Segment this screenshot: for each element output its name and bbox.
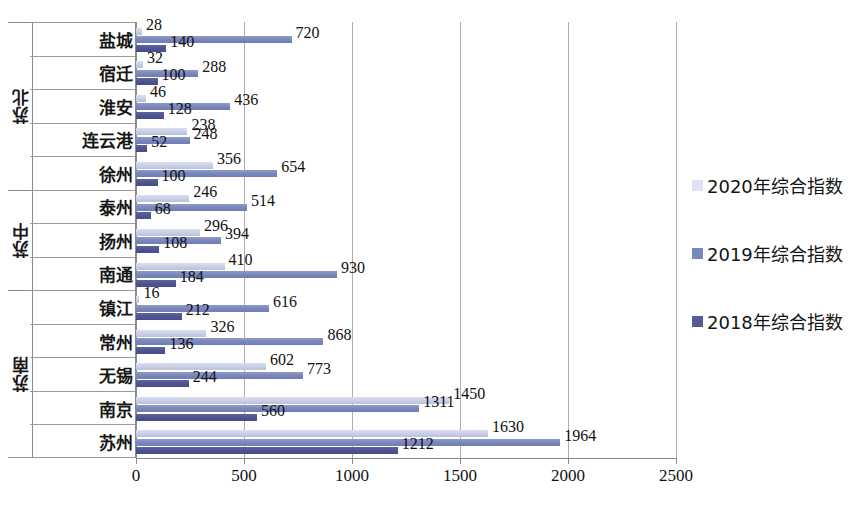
category-label: 常州 bbox=[99, 329, 133, 354]
x-tick-1000 bbox=[352, 458, 353, 464]
category-label: 苏州 bbox=[99, 429, 133, 454]
chart-legend: 2020年综合指数2019年综合指数2018年综合指数 bbox=[692, 172, 862, 376]
category-label: 扬州 bbox=[99, 228, 133, 253]
category-label-row: 泰州 bbox=[30, 190, 136, 224]
data-label: 46 bbox=[150, 84, 166, 100]
data-label: 136 bbox=[169, 336, 193, 352]
category-label-row: 南京 bbox=[30, 391, 136, 425]
bar-group-row: 32288100 bbox=[136, 56, 676, 90]
bar bbox=[136, 212, 151, 219]
data-label: 1212 bbox=[402, 436, 434, 452]
category-column-bottom-line bbox=[8, 457, 136, 458]
data-label: 100 bbox=[162, 67, 186, 83]
region-group-label: 苏北 bbox=[8, 88, 33, 124]
bar bbox=[136, 380, 189, 387]
bar bbox=[136, 397, 449, 404]
bar bbox=[136, 36, 292, 43]
data-label: 246 bbox=[193, 184, 217, 200]
bar-group-row: 296394108 bbox=[136, 223, 676, 257]
data-label: 108 bbox=[163, 235, 187, 251]
region-group-column: 苏北苏中苏南 bbox=[8, 22, 32, 458]
bar bbox=[136, 170, 277, 177]
data-label: 244 bbox=[193, 369, 217, 385]
data-label: 68 bbox=[155, 201, 171, 217]
data-label: 616 bbox=[273, 294, 297, 310]
bar-group-row: 46436128 bbox=[136, 89, 676, 123]
data-label: 100 bbox=[162, 168, 186, 184]
category-label-row: 宿迁 bbox=[30, 56, 136, 90]
category-label: 无锡 bbox=[99, 362, 133, 387]
category-label: 南通 bbox=[99, 261, 133, 286]
bar bbox=[136, 430, 488, 437]
category-label: 徐州 bbox=[99, 161, 133, 186]
data-label: 436 bbox=[234, 92, 258, 108]
x-tick-label: 2000 bbox=[551, 466, 585, 486]
data-label: 602 bbox=[270, 352, 294, 368]
bar-group-row: 410930184 bbox=[136, 257, 676, 291]
bar bbox=[136, 179, 158, 186]
region-group-cell: 苏中 bbox=[8, 190, 32, 291]
category-label-row: 无锡 bbox=[30, 357, 136, 391]
data-label: 654 bbox=[281, 159, 305, 175]
bar bbox=[136, 61, 143, 68]
data-label: 128 bbox=[168, 101, 192, 117]
data-label: 28 bbox=[146, 17, 162, 33]
category-label-column: 盐城宿迁淮安连云港徐州泰州扬州南通镇江常州无锡南京苏州 bbox=[30, 22, 136, 458]
x-axis-line bbox=[136, 458, 677, 459]
category-label-row: 扬州 bbox=[30, 223, 136, 257]
category-label-row: 镇江 bbox=[30, 290, 136, 324]
category-label-row: 淮安 bbox=[30, 89, 136, 123]
bar bbox=[136, 95, 146, 102]
data-label: 32 bbox=[147, 50, 163, 66]
data-label: 248 bbox=[194, 126, 218, 142]
category-label: 淮安 bbox=[99, 94, 133, 119]
legend-swatch-icon bbox=[692, 316, 703, 327]
x-tick-label: 500 bbox=[231, 466, 257, 486]
data-label: 212 bbox=[186, 302, 210, 318]
category-label: 泰州 bbox=[99, 194, 133, 219]
data-label: 1964 bbox=[564, 428, 596, 444]
bar-group-row: 326868136 bbox=[136, 324, 676, 358]
data-label: 326 bbox=[210, 319, 234, 335]
x-tick-500 bbox=[244, 458, 245, 464]
bar bbox=[136, 372, 303, 379]
bar-group-row: 28720140 bbox=[136, 22, 676, 56]
legend-label: 2020年综合指数 bbox=[707, 172, 843, 198]
bar bbox=[136, 28, 142, 35]
legend-item[interactable]: 2018年综合指数 bbox=[692, 308, 862, 334]
bar-group-row: 163019641212 bbox=[136, 424, 676, 458]
bar bbox=[136, 296, 139, 303]
data-label: 394 bbox=[225, 226, 249, 242]
category-label-row: 盐城 bbox=[30, 22, 136, 56]
legend-item[interactable]: 2019年综合指数 bbox=[692, 240, 862, 266]
category-label-row: 常州 bbox=[30, 324, 136, 358]
category-label: 宿迁 bbox=[99, 60, 133, 85]
plot-area: 2872014032288100464361282382485235665410… bbox=[136, 22, 676, 458]
legend-swatch-icon bbox=[692, 180, 703, 191]
region-group-label: 苏南 bbox=[8, 356, 33, 392]
data-label: 560 bbox=[261, 403, 285, 419]
bar bbox=[136, 204, 247, 211]
data-label: 16 bbox=[143, 285, 159, 301]
legend-item[interactable]: 2020年综合指数 bbox=[692, 172, 862, 198]
region-group-cell: 苏北 bbox=[8, 22, 32, 190]
bar bbox=[136, 112, 164, 119]
x-tick-label: 0 bbox=[132, 466, 141, 486]
x-tick-label: 1000 bbox=[335, 466, 369, 486]
data-label: 930 bbox=[341, 260, 365, 276]
bar-group-row: 14501311560 bbox=[136, 391, 676, 425]
legend-swatch-icon bbox=[692, 248, 703, 259]
data-label: 288 bbox=[202, 59, 226, 75]
category-label-row: 南通 bbox=[30, 257, 136, 291]
data-label: 720 bbox=[296, 25, 320, 41]
x-tick-1500 bbox=[460, 458, 461, 464]
bar bbox=[136, 338, 323, 345]
x-tick-2000 bbox=[568, 458, 569, 464]
category-label: 连云港 bbox=[82, 127, 133, 152]
data-label: 514 bbox=[251, 193, 275, 209]
bar-group-row: 602773244 bbox=[136, 357, 676, 391]
category-label: 南京 bbox=[99, 396, 133, 421]
bar bbox=[136, 246, 159, 253]
legend-label: 2019年综合指数 bbox=[707, 240, 843, 266]
bar bbox=[136, 271, 337, 278]
